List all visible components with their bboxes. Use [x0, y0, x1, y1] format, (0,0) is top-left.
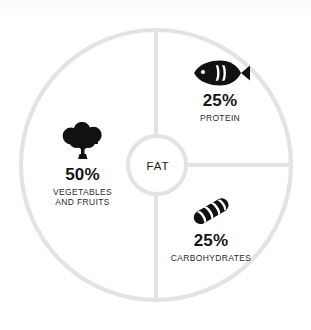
protein-label: PROTEIN	[168, 113, 272, 124]
broccoli-icon	[20, 122, 145, 160]
segment-carbohydrates: 25% CARBOHYDRATES	[150, 196, 272, 263]
bread-icon	[150, 196, 272, 226]
segment-vegetables: 50% VEGETABLES AND FRUITS	[20, 122, 145, 208]
fish-icon	[168, 60, 272, 86]
carbohydrates-percent: 25%	[150, 231, 272, 251]
vegetables-percent: 50%	[20, 165, 145, 185]
carbohydrates-label: CARBOHYDRATES	[150, 253, 272, 264]
segment-protein: 25% PROTEIN	[168, 60, 272, 123]
healthy-plate-infographic: FAT 25% PROTEIN	[0, 0, 311, 330]
vegetables-label: VEGETABLES AND FRUITS	[20, 187, 145, 209]
protein-percent: 25%	[168, 91, 272, 111]
